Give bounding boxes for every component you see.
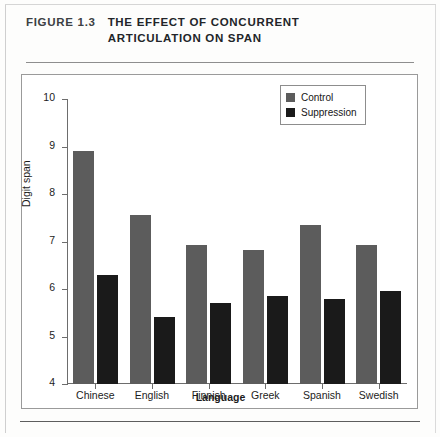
plot-area: 45678910ChineseEnglishFinnishGreekSpanis… <box>67 99 407 384</box>
footer-divider <box>20 421 420 422</box>
chart-panel: Control Suppression Digit span 45678910C… <box>21 74 418 409</box>
bar-chinese-control <box>73 151 94 384</box>
y-axis-tick-label: 4 <box>49 376 55 388</box>
y-axis-tick: 7 <box>62 242 68 243</box>
y-axis-tick-label: 8 <box>49 186 55 198</box>
bar-greek-suppression <box>267 296 288 384</box>
bar-chinese-suppression <box>97 275 118 384</box>
figure-title: THE EFFECT OF CONCURRENT ARTICULATION ON… <box>108 14 380 46</box>
header-divider <box>26 62 414 63</box>
y-axis-tick-label: 7 <box>49 234 55 246</box>
y-axis-tick-label: 6 <box>49 281 55 293</box>
y-axis-title: Digit span <box>20 160 32 207</box>
y-axis-tick-label: 5 <box>49 329 55 341</box>
figure-number: FIGURE 1.3 <box>26 14 96 30</box>
bar-swedish-suppression <box>380 291 401 384</box>
bar-finnish-control <box>186 245 207 384</box>
y-axis-tick-label: 9 <box>49 139 55 151</box>
y-axis-tick: 6 <box>62 289 68 290</box>
y-axis-tick-label: 10 <box>43 91 55 103</box>
page-border-top <box>5 4 436 5</box>
page-border-left <box>5 4 6 433</box>
bar-swedish-control <box>356 245 377 384</box>
figure-header: FIGURE 1.3 THE EFFECT OF CONCURRENT ARTI… <box>26 14 406 46</box>
page-border-right <box>435 4 436 433</box>
y-axis-tick: 5 <box>62 337 68 338</box>
bar-spanish-control <box>300 225 321 384</box>
bar-finnish-suppression <box>210 303 231 384</box>
bar-english-control <box>130 215 151 384</box>
bar-spanish-suppression <box>324 299 345 384</box>
y-axis-tick: 10 <box>62 99 68 100</box>
bar-english-suppression <box>154 317 175 384</box>
y-axis-tick: 8 <box>62 194 68 195</box>
y-axis-tick: 4 <box>62 384 68 385</box>
y-axis-tick: 9 <box>62 147 68 148</box>
x-axis-title: Language <box>22 391 419 403</box>
bar-greek-control <box>243 250 264 384</box>
figure-page: FIGURE 1.3 THE EFFECT OF CONCURRENT ARTI… <box>0 0 440 437</box>
